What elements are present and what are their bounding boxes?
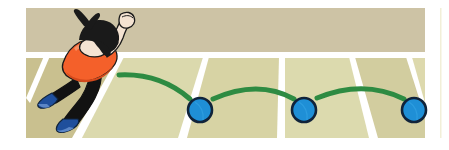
ball-bounce-1 [188,98,212,122]
ball-bounce-2 [292,98,316,122]
court-right-margin [425,0,440,150]
court-bottom-margin [0,138,449,150]
athlete-fist [119,12,135,28]
ball-bounce-2-body [292,98,316,122]
court-left-margin [0,0,26,150]
scene-svg: Athlete bouncing ball down a marked cour… [0,0,449,150]
ball-bounce-1-body [188,98,212,122]
illustration-root: Athlete bouncing ball down a marked cour… [0,0,449,150]
ball-bounce-3 [402,98,426,122]
ball-bounce-3-body [402,98,426,122]
right-edge-rule [440,0,442,150]
court-top-margin [0,0,449,8]
